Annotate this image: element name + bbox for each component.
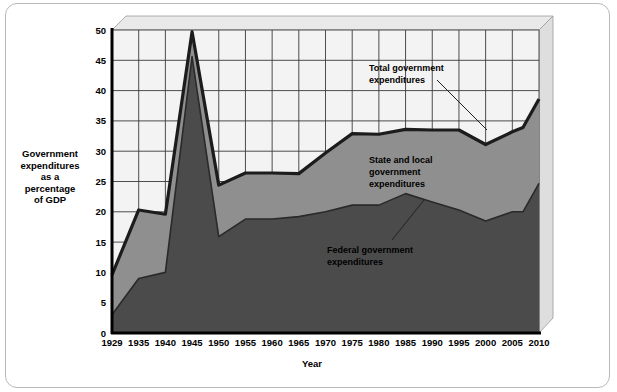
x-tick-label: 1955 [235,337,257,348]
x-tick-label: 1980 [368,337,389,348]
y-tick-label: 20 [95,206,106,217]
x-tick-label: 1935 [128,337,150,348]
x-tick-label: 2000 [475,337,496,348]
y-tick-label: 10 [95,267,106,278]
x-tick-label: 1950 [208,337,229,348]
x-tick-label: 1995 [448,337,470,348]
annotation-state-line1: State and local [369,155,433,165]
annotation-total-line2: expenditures [369,75,425,85]
y-tick-label: 35 [95,115,106,126]
x-tick-label: 1965 [288,337,310,348]
y-tick-label: 40 [95,85,106,96]
x-tick-label: 1940 [155,337,176,348]
x-tick-label: 1960 [262,337,283,348]
y-tick-label: 25 [95,176,106,187]
x-tick-label: 1929 [101,337,122,348]
x-tick-label: 1985 [395,337,417,348]
annotation-federal-line1: Federal government [327,245,413,255]
x-tick-label: 1945 [181,337,203,348]
chart-bevel-right [539,16,553,333]
area-chart: 05101520253035404550 1929193519401945195… [0,0,617,392]
y-tick-label: 50 [95,25,106,36]
x-tick-label: 2010 [528,337,549,348]
chart-bevel-top [112,16,553,30]
x-tick-labels: 1929193519401945195019551960196519701975… [101,337,549,348]
y-tick-label: 15 [95,237,106,248]
chart-page: Government expenditures as a percentage … [0,0,617,392]
y-tick-label: 30 [95,146,106,157]
annotation-total-line1: Total government [369,63,444,73]
y-tick-label: 45 [95,55,106,66]
y-tick-labels: 05101520253035404550 [95,25,106,339]
y-tick-label: 5 [101,297,107,308]
annotation-federal-line2: expenditures [327,257,383,267]
annotation-state-line3: expenditures [369,179,425,189]
x-tick-label: 1990 [422,337,443,348]
x-tick-label: 1970 [315,337,336,348]
annotation-state-line2: government [369,167,421,177]
x-tick-label: 2005 [502,337,524,348]
x-tick-label: 1975 [342,337,364,348]
